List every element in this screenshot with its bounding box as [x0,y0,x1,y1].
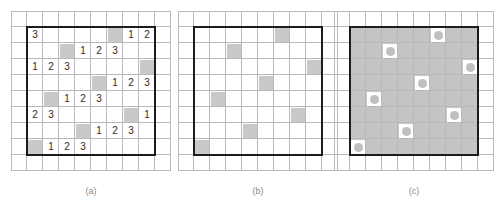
cell-number: 3 [59,59,75,75]
grid-cell [194,155,210,171]
grid-cell [59,43,75,59]
grid-cell [274,59,290,75]
cell-number: 2 [59,139,75,155]
grid-cell [242,27,258,43]
grid-cell [155,155,171,171]
grid-cell [75,75,91,91]
grid [334,11,494,171]
grid-cell [274,123,290,139]
grid-cell [366,123,382,139]
grid-cell [139,43,155,59]
grid-cell [350,107,366,123]
grid-cell [430,155,446,171]
grid-cell [91,139,107,155]
grid-cell [194,75,210,91]
cell-number: 1 [123,27,139,43]
grid-cell [462,59,478,75]
cell-number: 3 [123,123,139,139]
grid-cell [155,75,171,91]
grid-cell [226,59,242,75]
cell-number: 1 [107,75,123,91]
grid-cell [478,27,494,43]
cell-number: 1 [75,43,91,59]
grid-cell [366,59,382,75]
grid-cell [242,75,258,91]
grid-cell [107,155,123,171]
grid-cell [11,75,27,91]
grid-cell [123,107,139,123]
grid-cell [366,107,382,123]
grid-cell [226,139,242,155]
grid-cell [75,59,91,75]
grid-cell [290,155,306,171]
grid-cell [258,59,274,75]
grid-cell [178,123,194,139]
panel-b [178,11,338,171]
grid-cell [242,59,258,75]
grid-cell [334,75,350,91]
grid-cell [306,11,322,27]
grid-cell [478,11,494,27]
grid-cell [178,59,194,75]
grid-cell [350,139,366,155]
grid-cell [178,139,194,155]
grid-cell [414,59,430,75]
cell-number: 3 [91,91,107,107]
grid-cell [226,91,242,107]
grid-cell [75,123,91,139]
cell-number: 2 [43,59,59,75]
grid-cell [350,27,366,43]
grid-cell [11,107,27,123]
grid-cell [290,123,306,139]
panel-a: 312123123123123231123123 [11,11,171,171]
cell-number: 2 [123,75,139,91]
grid-cell [178,27,194,43]
grid-cell [258,43,274,59]
grid-cell [398,139,414,155]
grid-cell [306,155,322,171]
grid-cell [382,107,398,123]
grid-cell [107,27,123,43]
grid-cell [478,43,494,59]
grid-cell [226,107,242,123]
grid-cell [107,107,123,123]
grid-cell [155,43,171,59]
cell-number: 3 [27,27,43,43]
grid-cell [11,11,27,27]
grid-cell [446,107,462,123]
grid-cell [155,27,171,43]
grid-cell [366,43,382,59]
grid-cell [274,75,290,91]
grid-cell [258,123,274,139]
grid-cell [210,27,226,43]
grid-cell [414,91,430,107]
grid-cell [430,75,446,91]
grid-cell [194,59,210,75]
grid-cell [155,59,171,75]
grid-cell [398,91,414,107]
grid-cell [274,91,290,107]
grid-cell [27,91,43,107]
grid-cell [123,59,139,75]
grid-cell [27,123,43,139]
grid-cell [178,75,194,91]
grid-cell [59,27,75,43]
grid-cell [210,155,226,171]
grid-cell [382,59,398,75]
grid-cell [107,91,123,107]
grid-cell [139,11,155,27]
grid-cell [210,59,226,75]
grid-cell [194,91,210,107]
grid-cell [242,43,258,59]
grid-cell [274,11,290,27]
grid-cell [258,155,274,171]
grid-cell [462,139,478,155]
grid-cell [350,43,366,59]
cell-number: 1 [139,107,155,123]
grid-cell [462,123,478,139]
grid-cell [414,107,430,123]
grid-cell [398,43,414,59]
grid-cell [430,27,446,43]
grid-cell [414,43,430,59]
grid-cell [194,43,210,59]
